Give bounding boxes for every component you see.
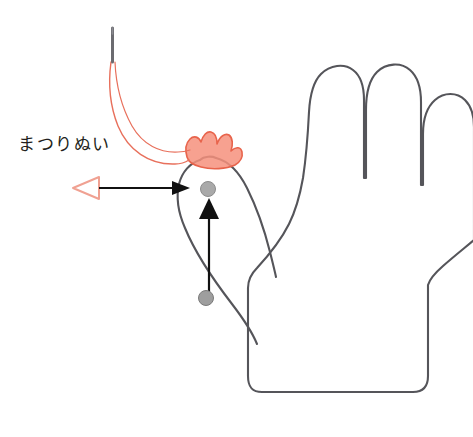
fabric-patch-shape — [186, 132, 242, 169]
label-arrow — [73, 177, 190, 199]
thumb-inner-edge — [216, 158, 276, 277]
glove-outline — [248, 65, 473, 392]
thread-strand-inner — [115, 62, 190, 152]
annotation-label: まつりぬい — [18, 136, 111, 153]
thread — [110, 62, 190, 164]
thumb-outer-edge — [178, 160, 257, 344]
fabric-patch — [186, 132, 242, 169]
glove-cuff-path — [262, 240, 473, 392]
glove-fingers-path — [248, 65, 473, 392]
pointer-triangle — [73, 177, 99, 199]
stitch-direction-arrow — [199, 198, 219, 294]
glove-thumb-outline — [178, 157, 276, 344]
stitch-arrow-head — [199, 198, 219, 219]
sewing-diagram: まつりぬい — [0, 0, 473, 437]
diagram-canvas — [0, 0, 473, 437]
label-arrow-head — [172, 181, 190, 195]
stitch-point-upper — [201, 182, 216, 197]
stitch-point-lower — [199, 291, 214, 306]
thread-strand-outer — [110, 62, 189, 164]
